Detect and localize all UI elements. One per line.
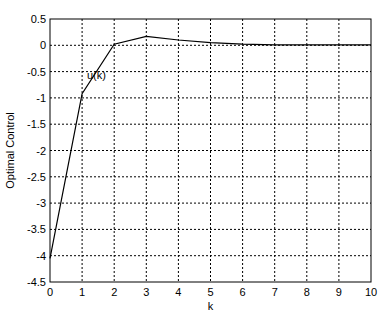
y-tick-label: -1 — [36, 92, 46, 104]
grid-lines — [50, 19, 371, 282]
x-tick-label: 9 — [336, 286, 342, 298]
x-tick-label: 6 — [240, 286, 246, 298]
y-tick-label: 0 — [40, 39, 46, 51]
y-tick-label: -2.5 — [27, 171, 46, 183]
optimal-control-chart: 012345678910 0.50-0.5-1-1.5-2-2.5-3-3.5-… — [0, 0, 391, 321]
x-axis-ticks: 012345678910 — [47, 286, 377, 298]
y-tick-label: -2 — [36, 145, 46, 157]
y-tick-label: -0.5 — [27, 66, 46, 78]
x-tick-label: 5 — [207, 286, 213, 298]
y-tick-label: -1.5 — [27, 118, 46, 130]
y-axis-label: Optimal Control — [4, 112, 16, 188]
x-tick-label: 3 — [143, 286, 149, 298]
y-tick-label: -4 — [36, 250, 46, 262]
x-tick-label: 0 — [47, 286, 53, 298]
annotations: u(k) — [87, 69, 106, 81]
x-tick-label: 1 — [79, 286, 85, 298]
y-tick-label: -3 — [36, 197, 46, 209]
x-tick-label: 4 — [175, 286, 181, 298]
y-tick-label: -3.5 — [27, 223, 46, 235]
x-tick-label: 8 — [304, 286, 310, 298]
x-axis-label: k — [208, 300, 214, 312]
annotation-label: u(k) — [87, 69, 106, 81]
x-tick-label: 10 — [365, 286, 377, 298]
y-tick-label: 0.5 — [31, 13, 46, 25]
x-tick-label: 7 — [272, 286, 278, 298]
y-tick-label: -4.5 — [27, 276, 46, 288]
x-tick-label: 2 — [111, 286, 117, 298]
y-axis-ticks: 0.50-0.5-1-1.5-2-2.5-3-3.5-4-4.5 — [27, 13, 46, 288]
